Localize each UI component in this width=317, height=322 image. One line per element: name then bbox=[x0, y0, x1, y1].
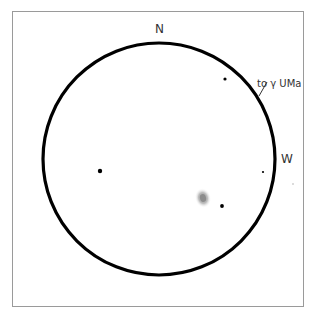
pointer-label: to γ UMa bbox=[257, 79, 301, 89]
eyepiece-field bbox=[0, 0, 317, 322]
star bbox=[223, 77, 226, 80]
north-label: N bbox=[155, 23, 164, 35]
west-label: W bbox=[281, 153, 293, 165]
faint-mark bbox=[292, 183, 294, 185]
star bbox=[262, 171, 264, 173]
field-of-view-circle bbox=[43, 43, 275, 275]
star bbox=[98, 169, 102, 173]
star bbox=[220, 204, 224, 208]
